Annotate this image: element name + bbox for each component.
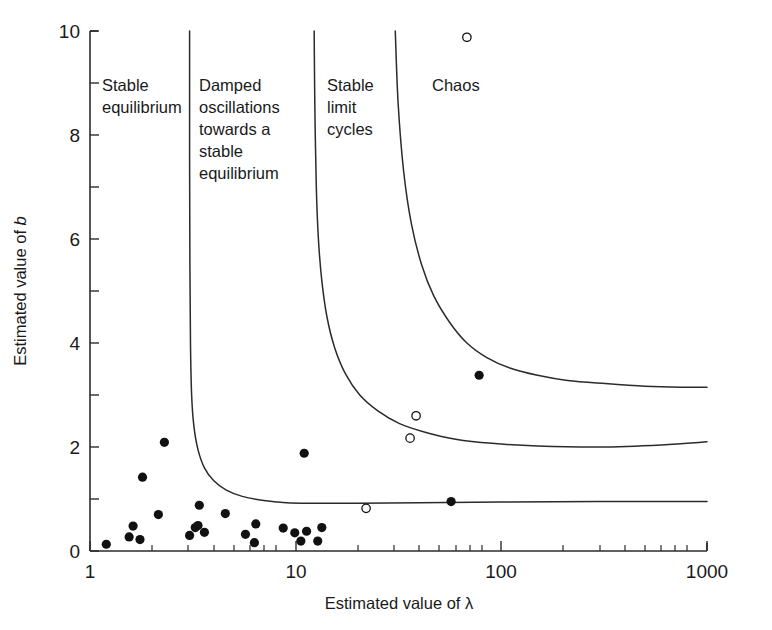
data-point-filled	[200, 528, 209, 537]
filled-circle-series	[102, 371, 484, 549]
data-point-filled	[296, 537, 305, 546]
x-axis-ticks	[90, 541, 707, 551]
region-label-line: Stable	[327, 76, 374, 94]
region-label-line: Stable	[102, 76, 149, 94]
data-point-filled	[185, 531, 194, 540]
region-label-line: limit	[327, 98, 357, 116]
region-label-stable-limit-cycles: Stable limit cycles	[327, 76, 374, 138]
y-axis-label-symbol: b	[11, 216, 29, 225]
data-point-filled	[279, 524, 288, 533]
data-point-open	[362, 504, 370, 512]
y-tick-label-6: 6	[69, 229, 80, 250]
region-label-damped-oscillations: Damped oscillations towards a stable equ…	[199, 76, 280, 182]
data-point-filled	[302, 527, 311, 536]
y-tick-label-10: 10	[59, 21, 80, 42]
svg-text:Estimated value of b: Estimated value of b	[11, 216, 29, 366]
data-point-filled	[251, 519, 260, 528]
region-label-chaos: Chaos	[432, 76, 480, 94]
figure-container: 0 2 4 6 8 10	[0, 0, 772, 630]
region-label-stable-equilibrium: Stable equilibrium	[102, 76, 182, 116]
x-axis-label: Estimated value of λ	[325, 594, 474, 612]
data-point-filled	[125, 532, 134, 541]
data-point-filled	[447, 497, 456, 506]
open-circle-series	[362, 33, 471, 513]
region-label-line: cycles	[327, 120, 373, 138]
data-point-filled	[154, 510, 163, 519]
data-point-filled	[241, 530, 250, 539]
scatter-plot-svg: 0 2 4 6 8 10	[0, 0, 772, 630]
x-tick-label-10: 10	[285, 561, 306, 582]
data-point-filled	[128, 521, 137, 530]
data-point-filled	[290, 528, 299, 537]
x-tick-label-1: 1	[85, 561, 96, 582]
data-point-open	[412, 412, 420, 420]
data-point-filled	[250, 538, 259, 547]
y-axis-label-prefix: Estimated value of	[11, 225, 29, 365]
y-tick-label-2: 2	[69, 437, 80, 458]
data-point-filled	[193, 521, 202, 530]
data-point-filled	[313, 537, 322, 546]
y-axis-label: Estimated value of b	[11, 216, 29, 366]
region-label-line: Damped	[199, 76, 261, 94]
data-point-filled	[221, 509, 230, 518]
data-point-filled	[102, 540, 111, 549]
x-tick-label-100: 100	[485, 561, 517, 582]
data-point-filled	[160, 438, 169, 447]
y-tick-label-0: 0	[69, 541, 80, 562]
data-point-filled	[317, 523, 326, 532]
region-label-line: equilibrium	[102, 98, 182, 116]
data-point-filled	[135, 535, 144, 544]
y-axis-ticks	[90, 31, 99, 551]
data-point-filled	[300, 449, 309, 458]
data-point-filled	[475, 371, 484, 380]
x-tick-label-1000: 1000	[686, 561, 728, 582]
data-point-filled	[138, 473, 147, 482]
y-axis-tick-labels: 0 2 4 6 8 10	[59, 21, 81, 562]
region-label-line: equilibrium	[199, 164, 279, 182]
x-axis-tick-labels: 1 10 100 1000	[85, 561, 728, 582]
region-label-line: oscillations	[199, 98, 280, 116]
region-label-line: stable	[199, 142, 243, 160]
y-tick-label-8: 8	[69, 125, 80, 146]
region-label-line: towards a	[199, 120, 271, 138]
data-point-filled	[195, 501, 204, 510]
data-point-open	[406, 434, 414, 442]
data-point-open	[463, 33, 471, 41]
y-tick-label-4: 4	[69, 333, 80, 354]
region-label-line: Chaos	[432, 76, 480, 94]
